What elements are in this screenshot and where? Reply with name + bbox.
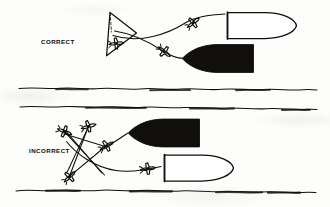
aircraft-plan-view-icon (60, 167, 79, 186)
view-cone-icon (107, 12, 137, 55)
sea-surface-line-1-shadow (56, 89, 270, 90)
label-incorrect: INCORRECT (29, 147, 70, 154)
panel-correct (107, 12, 297, 72)
approach-track-3 (107, 133, 128, 145)
ship-silhouette-icon (183, 45, 254, 73)
sea-surface-line-icon (16, 190, 316, 193)
aircraft-plan-view-icon (79, 119, 97, 134)
approach-track-2 (115, 31, 184, 58)
aircraft-plan-view-icon (97, 137, 116, 155)
sea-surface-line-icon (19, 88, 317, 110)
panel-incorrect (55, 119, 234, 187)
aircraft-plan-view-icon (139, 162, 156, 176)
diagram-canvas (0, 0, 330, 207)
label-correct: CORRECT (41, 38, 75, 45)
ship-silhouette-icon (129, 119, 200, 147)
aircraft-plan-view-icon (155, 42, 174, 61)
ship-outline-icon (228, 12, 297, 39)
sea-surface-line-2 (20, 106, 317, 109)
ship-outline-icon (165, 155, 234, 182)
